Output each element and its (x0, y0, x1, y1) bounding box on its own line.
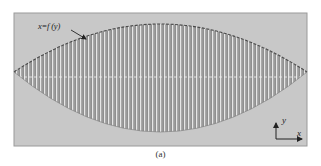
lens-diagram-figure: x=f (y) y x (a) (0, 0, 321, 166)
x-axis-label: x (297, 128, 301, 138)
y-axis-label: y (282, 115, 286, 125)
figure-caption: (a) (0, 149, 321, 159)
curve-label: x=f (y) (38, 21, 60, 31)
